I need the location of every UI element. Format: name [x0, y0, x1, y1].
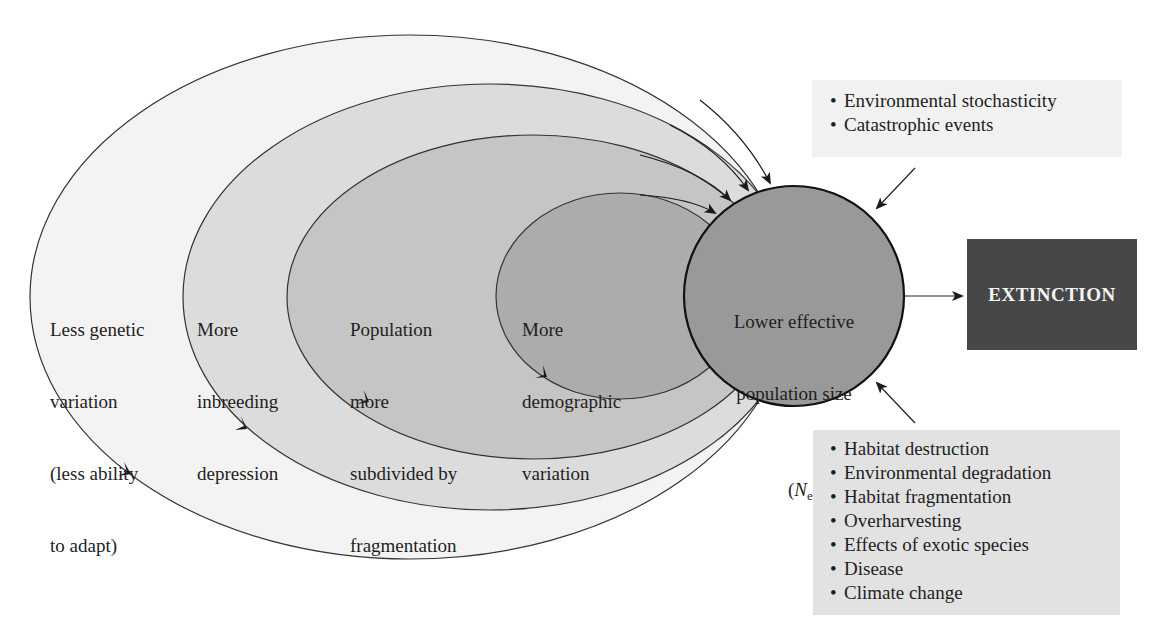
extinction-box: EXTINCTION [967, 239, 1137, 350]
list-item: •Habitat destruction [830, 437, 1120, 461]
label-line: subdivided by [350, 462, 457, 486]
bullet-icon: • [830, 533, 844, 557]
bullet-icon: • [830, 437, 844, 461]
stochastic-factors-list: •Environmental stochasticity •Catastroph… [830, 89, 1122, 137]
ring-label-demographic: More demographic variation [522, 270, 621, 510]
label-line: fragmentation [350, 534, 457, 558]
ring-label-fragmentation: Population more subdivided by fragmentat… [350, 270, 457, 582]
bullet-icon: • [830, 461, 844, 485]
bullet-icon: • [830, 557, 844, 581]
label-line: Lower effective [714, 310, 874, 334]
item-text: Habitat fragmentation [844, 486, 1011, 507]
list-item: •Effects of exotic species [830, 533, 1120, 557]
bullet-icon: • [830, 113, 844, 137]
item-text: Effects of exotic species [844, 534, 1029, 555]
label-line: More [522, 318, 621, 342]
label-line: more [350, 390, 457, 414]
item-text: Environmental degradation [844, 462, 1051, 483]
bullet-icon: • [830, 89, 844, 113]
drivers-arrow [877, 383, 915, 423]
label-line: depression [197, 462, 278, 486]
ring-label-genetic-variation: Less genetic variation (less ability to … [50, 270, 144, 582]
label-line: (less ability [50, 462, 144, 486]
stochastic-arrow [877, 168, 915, 208]
label-line: to adapt) [50, 534, 144, 558]
label-line: variation [522, 462, 621, 486]
item-text: Environmental stochasticity [844, 90, 1057, 111]
ring-label-inbreeding: More inbreeding depression [197, 270, 278, 510]
list-item: •Environmental degradation [830, 461, 1120, 485]
list-item: •Climate change [830, 581, 1120, 605]
stochastic-factors-box: •Environmental stochasticity •Catastroph… [812, 80, 1122, 157]
item-text: Disease [844, 558, 903, 579]
label-line: More [197, 318, 278, 342]
drivers-box: •Habitat destruction •Environmental degr… [813, 430, 1120, 615]
list-item: •Disease [830, 557, 1120, 581]
label-line: population size [714, 382, 874, 406]
symbol-n: N [794, 479, 807, 500]
label-line: demographic [522, 390, 621, 414]
bullet-icon: • [830, 509, 844, 533]
extinction-label: EXTINCTION [988, 284, 1115, 306]
item-text: Overharvesting [844, 510, 961, 531]
label-line: variation [50, 390, 144, 414]
item-text: Catastrophic events [844, 114, 993, 135]
bullet-icon: • [830, 485, 844, 509]
drivers-list: •Habitat destruction •Environmental degr… [830, 437, 1120, 605]
list-item: •Environmental stochasticity [830, 89, 1122, 113]
label-line: Less genetic [50, 318, 144, 342]
bullet-icon: • [830, 581, 844, 605]
label-line: inbreeding [197, 390, 278, 414]
list-item: •Habitat fragmentation [830, 485, 1120, 509]
label-line: Population [350, 318, 457, 342]
item-text: Habitat destruction [844, 438, 989, 459]
list-item: •Overharvesting [830, 509, 1120, 533]
list-item: •Catastrophic events [830, 113, 1122, 137]
item-text: Climate change [844, 582, 963, 603]
